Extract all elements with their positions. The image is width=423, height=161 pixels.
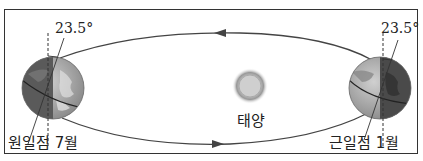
aphelion-label: 원일점 7월 [8,131,78,152]
orbit-arrow-top-icon [214,29,226,37]
left-tilt-angle-label: 23.5° [55,20,93,36]
earth-aphelion-icon [22,57,84,119]
earth-perihelion-icon [349,57,411,119]
sun-icon [232,68,268,104]
sun-label: 태양 [237,109,265,130]
orbit-arrow-bottom-icon [212,140,224,148]
orbit-path [60,33,372,144]
perihelion-label: 근일점 1월 [329,131,399,152]
right-tilt-angle-label: 23.5° [381,20,419,36]
